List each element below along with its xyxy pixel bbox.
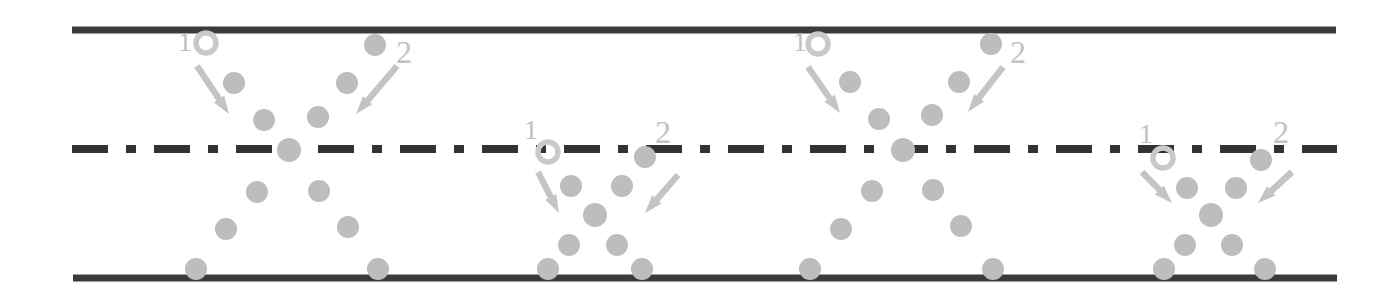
- particle: [336, 72, 358, 94]
- particle: [253, 109, 275, 131]
- particle: [948, 71, 970, 93]
- injector-label-2: 2: [1273, 116, 1289, 148]
- particle: [611, 175, 633, 197]
- injection-arrow-right: [356, 64, 399, 114]
- particle: [583, 203, 607, 227]
- injection-arrow-left: [194, 64, 229, 114]
- injection-arrow-left: [535, 171, 559, 214]
- particle: [560, 175, 582, 197]
- injector-label-1: 1: [1139, 120, 1153, 148]
- particle: [215, 218, 237, 240]
- particle: [1221, 234, 1243, 256]
- particle: [799, 258, 821, 280]
- particle: [1199, 203, 1223, 227]
- injector-marker: [196, 33, 216, 53]
- particle: [246, 181, 268, 203]
- particle: [364, 34, 386, 56]
- cluster-1: [185, 33, 399, 280]
- injector-label-1: 1: [178, 28, 192, 56]
- cluster-3: [799, 33, 1006, 280]
- particle: [891, 138, 915, 162]
- cluster-4: [1140, 148, 1295, 280]
- particle: [308, 180, 330, 202]
- particle: [1153, 258, 1175, 280]
- particle: [1225, 177, 1247, 199]
- particle: [830, 218, 852, 240]
- particle: [337, 216, 359, 238]
- particle: [950, 215, 972, 237]
- injection-arrow-left: [1140, 170, 1172, 203]
- schematic-svg: [0, 0, 1399, 293]
- particle: [606, 234, 628, 256]
- injection-arrow-right: [645, 173, 680, 213]
- injector-label-1: 1: [524, 116, 538, 144]
- walls-group: [72, 30, 1337, 278]
- particle: [922, 179, 944, 201]
- particle: [367, 258, 389, 280]
- injector-marker: [808, 34, 828, 54]
- injector-label-2: 2: [1010, 36, 1026, 68]
- particle: [1176, 177, 1198, 199]
- injection-arrow-right: [968, 65, 1006, 112]
- particle: [223, 72, 245, 94]
- injection-arrow-right: [1258, 170, 1294, 203]
- particle: [307, 106, 329, 128]
- particle: [634, 146, 656, 168]
- clusters-group: [185, 33, 1294, 280]
- particle: [861, 180, 883, 202]
- figure-canvas: 12121212: [0, 0, 1399, 293]
- particle: [277, 138, 301, 162]
- injector-label-2: 2: [655, 116, 671, 148]
- cluster-2: [535, 142, 680, 280]
- particle: [839, 71, 861, 93]
- particle: [1250, 149, 1272, 171]
- injection-arrow-left: [805, 65, 840, 113]
- injector-label-1: 1: [793, 28, 807, 56]
- particle: [1174, 234, 1196, 256]
- particle: [558, 234, 580, 256]
- particle: [921, 104, 943, 126]
- particle: [185, 258, 207, 280]
- particle: [982, 258, 1004, 280]
- particle: [1254, 258, 1276, 280]
- particle: [980, 33, 1002, 55]
- particle: [868, 108, 890, 130]
- injector-label-2: 2: [396, 36, 412, 68]
- particle: [537, 258, 559, 280]
- particle: [631, 258, 653, 280]
